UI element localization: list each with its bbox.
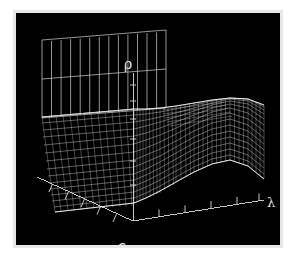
plot-canvas: ρ λ Copper bbox=[16, 13, 280, 245]
figure-root: ρ λ Copper bbox=[0, 0, 298, 272]
plot-frame: ρ λ Copper bbox=[13, 10, 283, 248]
valley-boundary-curve bbox=[42, 109, 134, 117]
z-axis bbox=[130, 73, 136, 221]
surface-plot-svg bbox=[16, 13, 280, 245]
vertical-axis-label: ρ bbox=[124, 57, 132, 71]
left-base-axis bbox=[37, 177, 133, 222]
right-axis-label: λ bbox=[267, 196, 275, 209]
right-base-axis bbox=[133, 193, 264, 221]
back-wall-grid bbox=[42, 30, 166, 118]
